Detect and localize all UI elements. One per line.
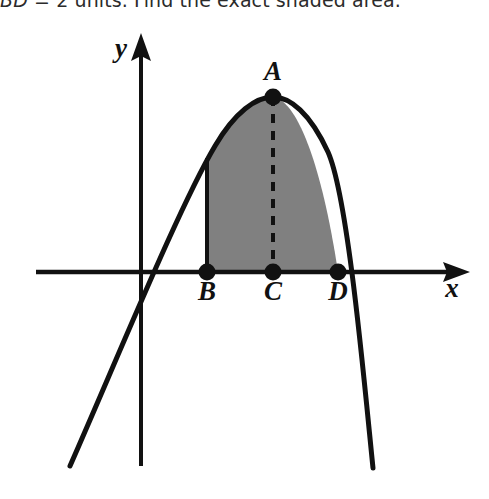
point-label-b: B bbox=[197, 276, 216, 306]
point-label-c: C bbox=[264, 276, 283, 306]
point-label-d: D bbox=[327, 276, 348, 306]
point-label-a: A bbox=[262, 56, 282, 86]
figure-page: BD = 2 units. Find the exact shaded area… bbox=[0, 0, 489, 499]
x-axis-label: x bbox=[444, 273, 459, 303]
point-a-dot bbox=[265, 89, 282, 106]
y-axis-label: y bbox=[112, 33, 128, 63]
coordinate-diagram: A B C D y x bbox=[0, 0, 489, 499]
